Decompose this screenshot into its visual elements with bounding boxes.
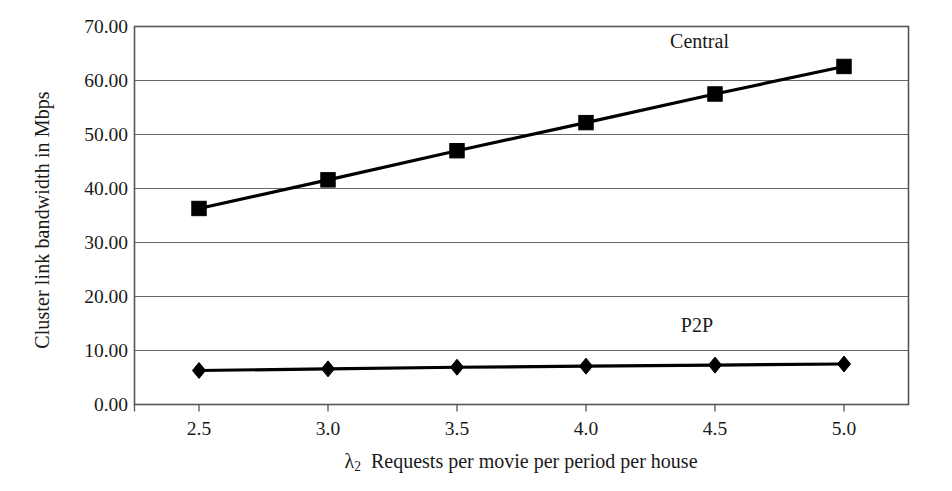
x-tick-label: 2.5 [159,419,239,439]
x-tick-label: 3.0 [288,419,368,439]
x-tick-label: 5.0 [804,419,884,439]
series-label-p2p: P2P [681,315,713,335]
lambda-subscript: 2 [354,459,361,474]
x-tick-label: 3.5 [417,419,497,439]
chart-figure: Cluster link bandwidth in Mbps 0.0010.00… [0,0,952,491]
x-tick-label: 4.5 [675,419,755,439]
lambda-symbol: λ [344,450,354,472]
x-axis-tick-labels: 2.53.03.54.04.55.0 [0,0,952,491]
x-axis-title: λ2 Requests per movie per period per hou… [134,450,908,475]
series-label-central: Central [670,31,729,51]
x-axis-title-text: Requests per movie per period per house [371,450,698,472]
x-tick-label: 4.0 [546,419,626,439]
